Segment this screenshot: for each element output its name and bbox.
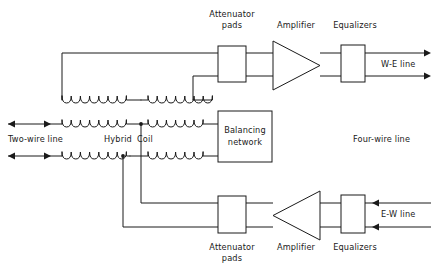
equalizers-top-label: Equalizers (333, 20, 377, 30)
hybrid-winding-mid-left (62, 120, 141, 127)
balancing-network-label-line1: Balancing (224, 125, 266, 135)
amplifier-bottom-triangle[interactable] (273, 191, 320, 240)
attenuator-pads-bottom-label-line2: pads (222, 253, 242, 263)
ew-input-top-arrowhead (372, 200, 379, 207)
hybrid-winding-upper-left (62, 96, 141, 103)
hybrid-winding-low-right (130, 152, 218, 159)
equalizers-bottom-label: Equalizers (333, 242, 377, 252)
attenuator-pads-top-label-line1: Attenuator (209, 9, 255, 19)
two-wire-lower-left-arrowhead (8, 153, 15, 160)
attenuator-pads-bottom-label-line1: Attenuator (209, 242, 255, 252)
we-output-bottom-arrowhead (424, 73, 431, 80)
two-wire-upper-left-arrowhead (8, 121, 15, 128)
we-line-label: W-E line (381, 59, 415, 69)
coil-label: Coil (137, 134, 153, 144)
schematic-canvas: Attenuator pads Amplifier Equalizers W-E… (0, 0, 437, 276)
ew-line-label: E-W line (381, 209, 415, 219)
balancing-network-label-line2: network (228, 137, 262, 147)
hybrid-winding-mid-right (141, 120, 218, 127)
hybrid-winding-upper-right (141, 96, 212, 103)
equalizers-bottom-box[interactable] (341, 195, 365, 233)
four-wire-line-label: Four-wire line (353, 134, 410, 144)
amplifier-top-triangle[interactable] (273, 41, 320, 90)
we-output-top-arrowhead (424, 50, 431, 57)
hybrid-label: Hybrid (104, 134, 132, 144)
amplifier-bottom-label: Amplifier (277, 242, 316, 252)
attenuator-pads-top-box[interactable] (218, 46, 246, 82)
ew-bottom-conductor-riser (123, 156, 218, 227)
equalizers-top-box[interactable] (341, 45, 365, 82)
attenuator-pads-top-label-line2: pads (222, 20, 242, 30)
amplifier-top-label: Amplifier (277, 20, 316, 30)
hybrid-winding-low-left (62, 152, 130, 159)
hybrid-coil-diagram: Attenuator pads Amplifier Equalizers W-E… (0, 0, 437, 276)
attenuator-pads-bottom-box[interactable] (218, 196, 246, 233)
ew-input-bottom-arrowhead (372, 224, 379, 231)
two-wire-lower-right-arrowhead (44, 153, 51, 160)
two-wire-line-label: Two-wire line (7, 134, 63, 144)
two-wire-upper-right-arrowhead (44, 121, 51, 128)
we-bottom-conductor-riser (193, 76, 218, 100)
